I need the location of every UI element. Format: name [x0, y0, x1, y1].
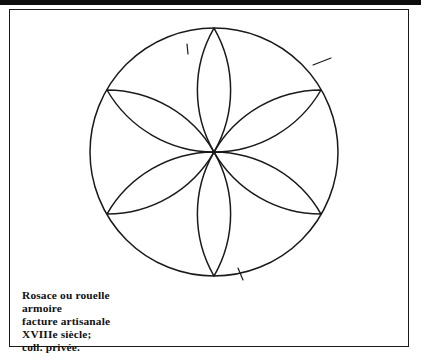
construction-tick-top: [187, 44, 188, 54]
caption-line-period: XVIIIe siècle;: [22, 328, 272, 341]
plate-caption: Rosace ou rouelle armoire facture artisa…: [22, 289, 272, 354]
construction-tick-upper-right: [313, 58, 331, 65]
rosette-figure: [10, 10, 410, 286]
top-rule-bar: [0, 0, 421, 5]
caption-line-manufacture: facture artisanale: [22, 315, 272, 328]
rosette-drawing: [10, 10, 410, 286]
petal-bottom: [197, 152, 230, 276]
caption-line-collection: coll. privée.: [22, 341, 272, 354]
plate-frame: Rosace ou rouelle armoire facture artisa…: [9, 9, 409, 347]
caption-line-object: armoire: [22, 302, 272, 315]
scanned-plate-page: Rosace ou rouelle armoire facture artisa…: [0, 0, 421, 361]
caption-line-title: Rosace ou rouelle: [22, 289, 272, 302]
petal-top: [197, 28, 230, 152]
